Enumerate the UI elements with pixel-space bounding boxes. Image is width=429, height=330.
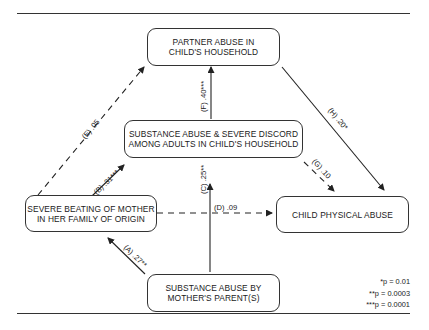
- node-label-line1: SUBSTANCE ABUSE BY: [165, 283, 261, 293]
- legend-item: ***p = 0.0001: [345, 299, 410, 311]
- node-child-abuse: CHILD PHYSICAL ABUSE: [276, 196, 409, 233]
- legend-item: *p = 0.01: [345, 276, 410, 288]
- edge-label-c: (C) .25**: [199, 165, 208, 194]
- edge-label-d: (D) .09: [214, 203, 237, 212]
- node-label-line2: IN HER FAMILY OF ORIGIN: [27, 214, 154, 224]
- edge-label-f: (F) .40***: [199, 81, 208, 112]
- legend-item: **p = 0.0003: [345, 288, 410, 300]
- node-label-line1: CHILD PHYSICAL ABUSE: [292, 210, 393, 220]
- node-label-line2: MOTHER'S PARENT(S): [165, 293, 261, 303]
- node-label-line1: SEVERE BEATING OF MOTHER: [27, 204, 154, 214]
- node-substance-discord: SUBSTANCE ABUSE & SEVERE DISCORD AMONG A…: [124, 120, 303, 158]
- node-label-line2: CHILD'S HOUSEHOLD: [169, 47, 258, 57]
- node-severe-beating: SEVERE BEATING OF MOTHER IN HER FAMILY O…: [25, 195, 157, 232]
- node-label-line1: PARTNER ABUSE IN: [169, 37, 258, 47]
- significance-legend: *p = 0.01 **p = 0.0003 ***p = 0.0001: [345, 276, 410, 311]
- node-label-line2: AMONG ADULTS IN CHILD'S HOUSEHOLD: [129, 139, 299, 149]
- node-substance-parent: SUBSTANCE ABUSE BY MOTHER'S PARENT(S): [147, 274, 280, 312]
- node-partner-abuse: PARTNER ABUSE IN CHILD'S HOUSEHOLD: [147, 28, 280, 66]
- node-label-line1: SUBSTANCE ABUSE & SEVERE DISCORD: [129, 129, 299, 139]
